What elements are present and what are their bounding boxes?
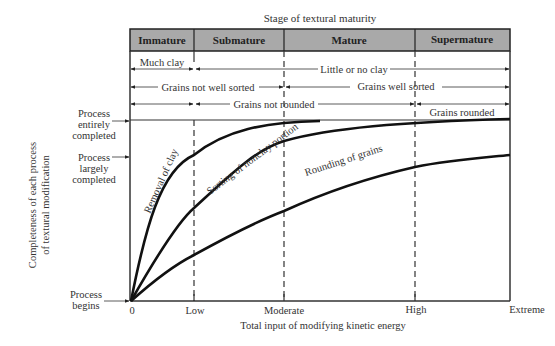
- range-labels: Much clay Little or no clay Grains not w…: [140, 57, 496, 118]
- svg-text:begins: begins: [72, 300, 99, 311]
- stage-header: Immature Submature Mature Supermature: [130, 29, 510, 51]
- svg-text:Process: Process: [70, 289, 102, 300]
- svg-text:largely: largely: [80, 163, 110, 174]
- range-not-rounded: Grains not rounded: [233, 99, 315, 110]
- curve-removal-of-clay: [131, 121, 320, 301]
- stage-supermature: Supermature: [431, 33, 493, 45]
- y-axis-title: Completeness of each process of textural…: [27, 142, 51, 268]
- stage-immature: Immature: [138, 34, 186, 46]
- range-little-clay: Little or no clay: [320, 64, 388, 75]
- svg-text:of textural modification: of textural modification: [40, 154, 51, 254]
- textural-maturity-diagram: Stage of textural maturity Immature Subm…: [0, 0, 555, 346]
- range-not-sorted: Grains not well sorted: [161, 82, 255, 93]
- svg-text:Process: Process: [78, 152, 110, 163]
- svg-text:Extreme: Extreme: [509, 304, 545, 315]
- label-removal-of-clay: Removal of clay: [142, 146, 181, 215]
- svg-text:Process: Process: [78, 108, 110, 119]
- curve-rounding: [131, 155, 510, 301]
- x-ticks: [194, 294, 415, 301]
- diagram-title: Stage of textural maturity: [264, 12, 377, 24]
- curves: [131, 119, 510, 301]
- range-rounded: Grains rounded: [429, 107, 495, 118]
- x-axis-title: Total input of modifying kinetic energy: [240, 320, 406, 331]
- svg-text:completed: completed: [72, 130, 116, 141]
- svg-text:Low: Low: [185, 305, 205, 316]
- curve-sorting: [131, 119, 510, 301]
- range-well-sorted: Grains well sorted: [358, 81, 436, 92]
- svg-text:entirely: entirely: [78, 119, 111, 130]
- stage-mature: Mature: [331, 34, 366, 46]
- svg-text:Completeness of each process: Completeness of each process: [27, 142, 38, 268]
- label-sorting: Sorting of nonclay portion: [205, 120, 301, 196]
- range-much-clay: Much clay: [140, 57, 185, 68]
- svg-text:0: 0: [129, 305, 134, 316]
- svg-text:completed: completed: [72, 174, 116, 185]
- svg-text:Moderate: Moderate: [264, 305, 305, 316]
- x-tick-labels: 0 Low Moderate High Extreme: [129, 304, 545, 316]
- label-rounding: Rounding of grains: [303, 142, 384, 178]
- y-levels: Process entirely completed Process large…: [70, 108, 129, 311]
- svg-text:High: High: [406, 304, 428, 315]
- stage-submature: Submature: [213, 34, 265, 46]
